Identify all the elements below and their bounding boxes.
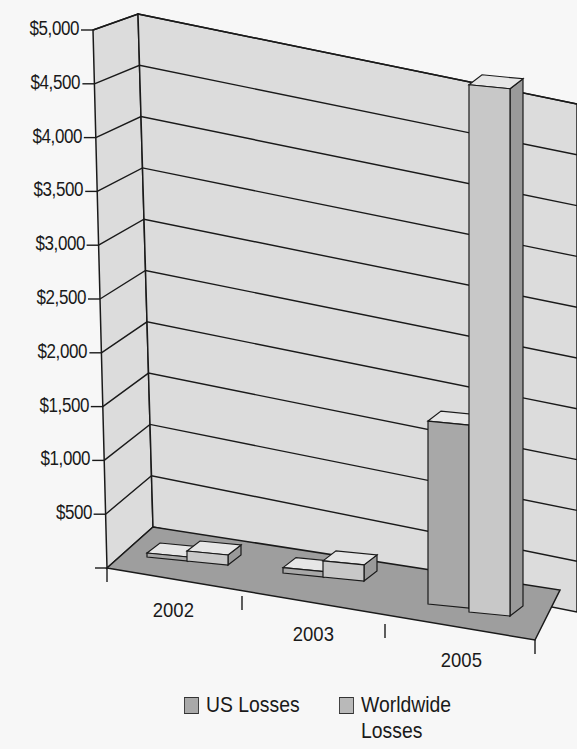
legend-swatch-worldwide bbox=[339, 697, 354, 714]
bar-front bbox=[469, 85, 510, 616]
legend-swatch-us bbox=[184, 697, 199, 714]
bar-worldwide-2005 bbox=[469, 75, 523, 616]
y-tick-label: $3,000 bbox=[12, 232, 85, 255]
bar-side bbox=[510, 79, 523, 616]
bar-front bbox=[323, 561, 364, 581]
y-tick-label: $1,000 bbox=[17, 447, 90, 470]
x-tick-label-2005: 2005 bbox=[441, 648, 482, 672]
y-tick-label: $2,500 bbox=[13, 286, 86, 309]
legend-item-worldwide-losses: Worldwide Losses bbox=[339, 692, 451, 744]
bar-worldwide-2002 bbox=[187, 541, 241, 565]
bar-front bbox=[428, 421, 469, 608]
legend-label-worldwide-line1: Worldwide bbox=[361, 692, 451, 717]
y-tick-label: $3,500 bbox=[10, 178, 83, 201]
x-tick-label-2002: 2002 bbox=[153, 598, 194, 622]
y-tick-label: $4,000 bbox=[9, 125, 82, 148]
legend-label-us: US Losses bbox=[206, 692, 300, 718]
y-tick-label: $500 bbox=[18, 501, 91, 524]
y-tick-label: $5,000 bbox=[6, 17, 79, 40]
legend-item-us-losses: US Losses bbox=[184, 692, 300, 718]
3d-bar-chart bbox=[0, 0, 577, 749]
legend-label-worldwide-line2: Losses bbox=[361, 718, 422, 743]
bar-worldwide-2003 bbox=[323, 551, 377, 581]
legend-label-worldwide: Worldwide Losses bbox=[361, 692, 451, 744]
y-tick-label: $4,500 bbox=[7, 71, 80, 94]
x-tick-label-2003: 2003 bbox=[293, 622, 334, 646]
y-tick-label: $2,000 bbox=[14, 340, 87, 363]
y-tick-label: $1,500 bbox=[16, 394, 89, 417]
